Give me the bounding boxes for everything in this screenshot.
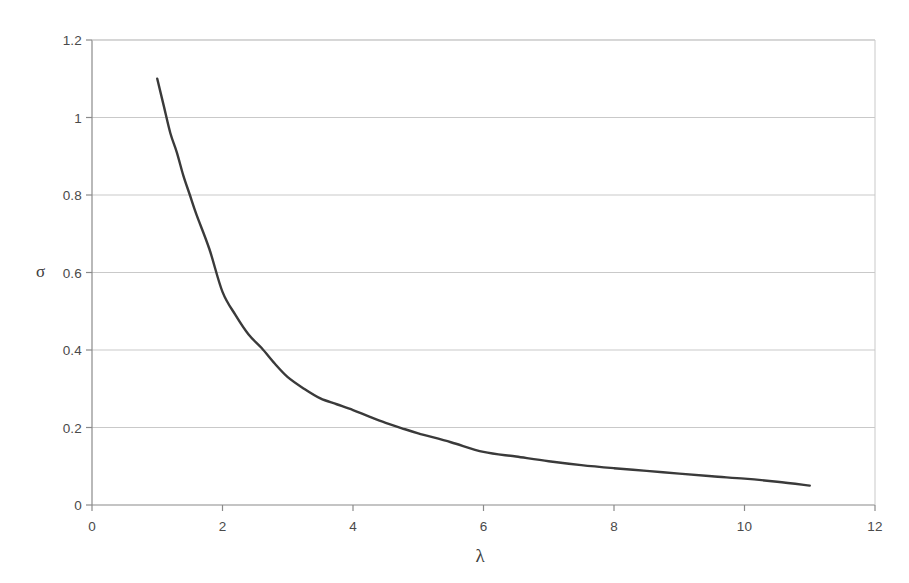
x-tick-label: 12	[867, 519, 882, 534]
plot-area	[0, 0, 909, 583]
x-tick-label: 6	[480, 519, 488, 534]
series-line	[157, 79, 810, 486]
y-axis-label: σ	[36, 262, 45, 282]
y-tick-label: 0.8	[40, 188, 82, 203]
chart-container: 00.20.40.60.811.2 024681012 σ λ	[0, 0, 909, 583]
x-tick-label: 10	[737, 519, 752, 534]
y-tick-label: 1	[40, 110, 82, 125]
y-tick-label: 0.6	[40, 265, 82, 280]
y-tick-label: 0	[40, 498, 82, 513]
y-tick-label: 0.4	[40, 343, 82, 358]
data-series	[157, 79, 810, 486]
y-tick-label: 0.2	[40, 420, 82, 435]
x-tick-label: 0	[88, 519, 96, 534]
x-tick-label: 2	[219, 519, 227, 534]
x-axis-label: λ	[476, 545, 485, 567]
x-tick-label: 8	[610, 519, 618, 534]
gridlines	[92, 40, 875, 428]
y-tick-label: 1.2	[40, 33, 82, 48]
tick-marks	[86, 40, 875, 511]
x-tick-label: 4	[349, 519, 357, 534]
